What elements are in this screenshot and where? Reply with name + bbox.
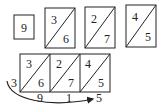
bottom-digit: 5 xyxy=(96,91,102,105)
lower-digit: 6 xyxy=(63,32,69,46)
lattice-grid: 3 6 2 7 4 5 xyxy=(20,54,110,92)
cell-upper-digit: 2 xyxy=(56,57,62,71)
box-split-2-7: 2 7 xyxy=(85,7,115,48)
upper-digit: 2 xyxy=(91,12,97,26)
cell-lower-digit: 7 xyxy=(68,76,74,90)
box-single-9: 9 xyxy=(14,15,34,39)
box-digit: 9 xyxy=(21,21,27,35)
cell-lower-digit: 6 xyxy=(38,76,44,90)
lower-digit: 5 xyxy=(145,30,151,44)
left-digit: 3 xyxy=(11,76,17,90)
box-split-4-5: 4 5 xyxy=(126,5,156,47)
cell-lower-digit: 5 xyxy=(98,76,104,90)
cell-upper-digit: 4 xyxy=(85,57,91,71)
upper-digit: 4 xyxy=(132,10,138,24)
bottom-digit: 9 xyxy=(37,91,43,105)
box-split-3-6: 3 6 xyxy=(45,8,75,48)
lower-digit: 7 xyxy=(104,32,110,46)
lattice-multiplication-diagram: 9 3 6 2 7 4 5 3 6 2 7 4 5 3 9 1 xyxy=(0,0,165,106)
upper-digit: 3 xyxy=(51,13,57,27)
cell-upper-digit: 3 xyxy=(26,57,32,71)
